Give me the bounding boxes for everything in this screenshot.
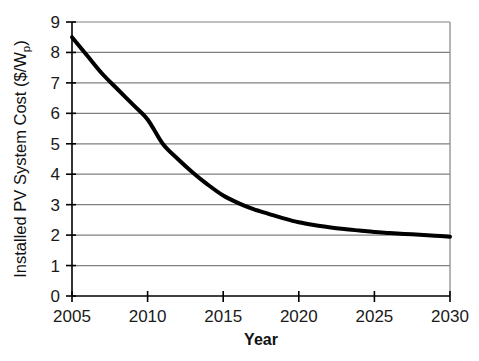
x-tick-label: 2020 [280,307,318,326]
y-tick-label: 1 [51,257,60,276]
chart-figure: 0123456789 200520102015202020252030 Year… [0,0,479,361]
y-axis-title: Installed PV System Cost ($/Wp) [11,40,32,277]
x-tick-label: 2010 [129,307,167,326]
y-tick-label: 6 [51,104,60,123]
y-tick-label: 3 [51,196,60,215]
y-axis-title-main: Installed PV System Cost ($/W [11,52,29,278]
y-tick-label: 0 [51,287,60,306]
y-tick-label: 9 [51,13,60,32]
svg-text:Installed PV System Cost ($/Wp: Installed PV System Cost ($/Wp) [11,40,32,277]
x-tick-label: 2030 [431,307,469,326]
x-axis-title: Year [244,331,278,348]
y-axis-title-tail: ) [11,40,29,46]
pv-cost-line-chart: 0123456789 200520102015202020252030 Year… [0,0,479,361]
y-tick-label: 7 [51,74,60,93]
y-tick-label: 2 [51,226,60,245]
y-tick-label: 5 [51,135,60,154]
x-tick-label: 2005 [53,307,91,326]
y-tick-label: 4 [51,165,60,184]
y-tick-label: 8 [51,43,60,62]
x-tick-label: 2025 [355,307,393,326]
x-tick-label: 2015 [204,307,242,326]
plot-area [72,22,450,296]
